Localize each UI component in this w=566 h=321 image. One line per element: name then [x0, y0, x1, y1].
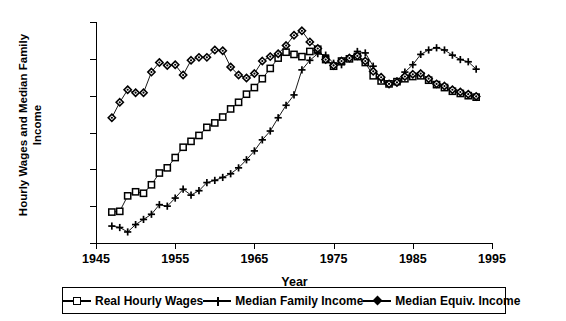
x-axis-tick: [413, 243, 414, 249]
x-axis-tick: [254, 243, 255, 249]
y-axis-title: Hourly Wages and Median Family Income: [0, 0, 60, 250]
data-point-marker: [235, 99, 241, 105]
x-axis-tick-label: 1965: [224, 252, 284, 266]
y-axis-title-line1: Hourly Wages and Median Family: [16, 34, 30, 216]
data-point-center: [420, 72, 422, 74]
x-axis-tick-label: 1985: [383, 252, 443, 266]
data-point-center: [443, 85, 445, 87]
data-point-center: [277, 53, 279, 55]
data-point-center: [166, 64, 168, 66]
x-axis-tick-label: 1975: [304, 252, 364, 266]
diamond-marker-icon: [363, 295, 391, 307]
data-point-marker: [180, 144, 186, 150]
data-point-center: [388, 83, 390, 85]
data-point-center: [222, 50, 224, 52]
data-point-marker: [140, 216, 147, 223]
data-point-center: [317, 47, 319, 49]
data-point-marker: [188, 138, 194, 144]
data-point-center: [340, 60, 342, 62]
data-point-center: [206, 56, 208, 58]
legend-item-real-hourly-wages[interactable]: Real Hourly Wages: [63, 294, 203, 308]
data-point-center: [372, 70, 374, 72]
data-point-marker: [211, 177, 218, 184]
data-point-marker: [291, 51, 297, 57]
data-point-center: [142, 92, 144, 94]
data-point-center: [301, 30, 303, 32]
data-point-center: [230, 66, 232, 68]
data-point-center: [269, 56, 271, 58]
data-point-center: [404, 75, 406, 77]
data-point-center: [111, 117, 113, 119]
data-point-marker: [148, 182, 154, 188]
data-point-marker: [117, 208, 123, 214]
legend-item-median-equiv-income[interactable]: Median Equiv. Income: [363, 294, 520, 308]
data-point-center: [190, 59, 192, 61]
data-point-marker: [259, 76, 265, 82]
data-point-marker: [290, 91, 297, 98]
data-point-marker: [299, 54, 305, 60]
data-point-marker: [362, 49, 369, 56]
data-point-center: [356, 55, 358, 57]
chart-legend: Real Hourly Wages Median Family Income M…: [62, 287, 506, 314]
x-axis-tick-label: 1995: [462, 252, 522, 266]
data-point-center: [428, 78, 430, 80]
y-axis-title-line2: Income: [30, 34, 44, 216]
data-point-center: [333, 64, 335, 66]
data-point-marker: [220, 114, 226, 120]
y-axis-tick: [90, 206, 96, 207]
data-point-center: [198, 56, 200, 58]
legend-label: Median Equiv. Income: [395, 294, 520, 308]
data-point-marker: [425, 46, 432, 53]
data-point-marker: [116, 224, 123, 231]
y-axis-tick: [90, 59, 96, 60]
y-axis-tick: [90, 96, 96, 97]
legend-label: Real Hourly Wages: [95, 294, 203, 308]
data-point-marker: [457, 56, 464, 63]
data-point-center: [412, 73, 414, 75]
data-point-center: [237, 74, 239, 76]
data-point-center: [285, 44, 287, 46]
data-point-center: [174, 64, 176, 66]
data-point-center: [293, 34, 295, 36]
data-point-center: [127, 89, 129, 91]
data-point-center: [364, 60, 366, 62]
x-axis-tick: [175, 243, 176, 249]
legend-item-median-family-income[interactable]: Median Family Income: [203, 294, 363, 308]
data-point-center: [459, 91, 461, 93]
data-point-marker: [109, 209, 115, 215]
data-point-marker: [219, 174, 226, 181]
data-point-center: [214, 49, 216, 51]
y-axis-tick: [90, 133, 96, 134]
data-point-center: [150, 71, 152, 73]
data-point-center: [309, 41, 311, 43]
data-point-marker: [187, 192, 194, 199]
data-point-marker: [164, 165, 170, 171]
data-point-marker: [108, 222, 115, 229]
data-point-marker: [133, 189, 139, 195]
x-axis-tick-label: 1945: [66, 252, 126, 266]
data-point-marker: [172, 154, 178, 160]
data-point-center: [396, 81, 398, 83]
data-point-marker: [441, 46, 448, 53]
legend-label: Median Family Income: [235, 294, 363, 308]
data-point-marker: [204, 124, 210, 130]
data-point-center: [245, 77, 247, 79]
x-axis-tick: [492, 243, 493, 249]
data-point-marker: [267, 65, 273, 71]
data-point-center: [467, 93, 469, 95]
data-point-marker: [275, 114, 282, 121]
x-axis-tick: [334, 243, 335, 249]
data-point-center: [348, 57, 350, 59]
data-point-marker: [433, 44, 440, 51]
x-axis-tick-label: 1955: [145, 252, 205, 266]
data-point-center: [325, 58, 327, 60]
data-point-marker: [251, 84, 257, 90]
data-point-center: [451, 89, 453, 91]
data-point-marker: [417, 51, 424, 58]
plus-marker-icon: [203, 295, 231, 307]
data-point-marker: [212, 120, 218, 126]
data-point-center: [158, 61, 160, 63]
data-point-marker: [156, 170, 162, 176]
x-axis-tick: [96, 243, 97, 249]
data-point-marker: [307, 48, 313, 54]
